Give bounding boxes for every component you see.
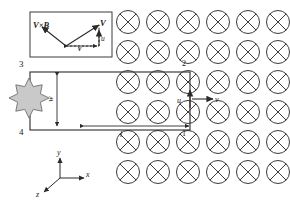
inset-label-u: u: [101, 35, 105, 43]
field-into-page-icon: [177, 161, 200, 184]
field-into-page-icon: [147, 11, 170, 34]
field-into-page-icon: [207, 161, 230, 184]
field-into-page-icon: [267, 11, 290, 34]
field-into-page-icon: [117, 11, 140, 34]
velocity-label-v: v: [215, 96, 219, 104]
field-into-page-icon: [117, 101, 140, 124]
axis-label-y: y: [57, 149, 61, 157]
field-into-page-icon: [117, 41, 140, 64]
field-into-page-icon: [117, 71, 140, 94]
field-into-page-icon: [207, 71, 230, 94]
magnetic-field-grid: [117, 11, 290, 184]
figure-svg: [0, 0, 290, 205]
axis-label-z: z: [36, 191, 39, 199]
corner-label-1: 1: [182, 130, 186, 138]
field-into-page-icon: [147, 161, 170, 184]
field-into-page-icon: [147, 71, 170, 94]
field-into-page-icon: [237, 101, 260, 124]
field-into-page-icon: [267, 131, 290, 154]
coordinate-axes: [44, 158, 84, 192]
velocity-label-u: u: [177, 97, 181, 105]
field-into-page-icon: [237, 131, 260, 154]
field-into-page-icon: [147, 41, 170, 64]
field-into-page-icon: [117, 161, 140, 184]
field-into-page-icon: [177, 131, 200, 154]
field-into-page-icon: [237, 11, 260, 34]
field-into-page-icon: [267, 161, 290, 184]
field-into-page-icon: [207, 11, 230, 34]
field-into-page-icon: [177, 71, 200, 94]
dimension-label-l: l: [120, 131, 122, 139]
inset-label-vxb: V×B: [33, 21, 49, 30]
field-into-page-icon: [177, 11, 200, 34]
field-into-page-icon: [267, 101, 290, 124]
field-into-page-icon: [177, 41, 200, 64]
load-star-icon: [9, 78, 49, 118]
field-into-page-icon: [147, 101, 170, 124]
field-into-page-icon: [237, 161, 260, 184]
field-into-page-icon: [237, 71, 260, 94]
inset-label-v: v: [78, 45, 81, 53]
corner-label-4: 4: [19, 128, 24, 137]
figure-canvas: 3 2 4 1 w l u v V×B V u v y x z: [0, 0, 290, 205]
field-into-page-icon: [147, 131, 170, 154]
axis-label-x: x: [86, 171, 90, 179]
field-into-page-icon: [237, 41, 260, 64]
corner-label-3: 3: [19, 60, 24, 69]
field-into-page-icon: [207, 131, 230, 154]
corner-label-2: 2: [182, 60, 186, 68]
field-into-page-icon: [267, 41, 290, 64]
inset-label-bigv: V: [100, 19, 106, 28]
field-into-page-icon: [267, 71, 290, 94]
field-into-page-icon: [207, 41, 230, 64]
dimension-label-w: w: [47, 96, 55, 101]
